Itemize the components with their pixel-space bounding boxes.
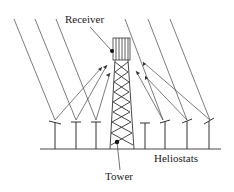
receiver-label: Receiver [65, 13, 104, 25]
tower-label: Tower [105, 170, 133, 182]
receiver-leader [90, 27, 111, 50]
tower-leader [117, 142, 120, 170]
reflected-rays [55, 62, 210, 120]
receiver-dot [110, 49, 114, 53]
heliostats-label: Heliostats [154, 152, 198, 164]
receiver [113, 38, 130, 60]
tower [110, 60, 134, 149]
diagram-graphics [0, 0, 234, 192]
sun-rays [14, 19, 210, 120]
solar-tower-diagram: Receiver Tower Heliostats [0, 0, 234, 192]
